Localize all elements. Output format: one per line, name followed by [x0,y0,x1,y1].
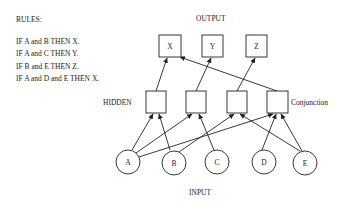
edge-B-H3 [179,114,234,152]
output-node-X: X [159,35,181,57]
edge-B-H1 [159,114,170,150]
output-label-X: X [167,42,173,51]
input-node-B: B [162,151,186,175]
hidden-node-3 [227,91,247,113]
edge-D-H4 [262,114,276,150]
hidden-node-1 [146,91,166,113]
input-node-A: A [116,150,140,174]
hidden-node-4 [267,91,288,113]
edge-H1-X [156,58,167,91]
input-node-C: C [205,150,229,174]
input-label-B: B [171,159,176,168]
edge-H3-Z [237,58,255,91]
input-label-C: C [214,158,219,167]
output-node-Y: Y [202,35,223,57]
network-diagram: X Y Z A B C D E [0,0,349,205]
edge-A-H2 [136,114,192,153]
input-label-A: A [125,158,131,167]
input-label-D: D [261,158,267,167]
input-node-D: D [252,150,276,174]
output-node-Z: Z [246,35,267,57]
edge-A-H4 [139,114,273,157]
output-label-Y: Y [210,42,216,51]
input-label-E: E [303,159,308,168]
edge-H4-X [180,57,277,91]
hidden-node-2 [186,91,206,113]
output-label-Z: Z [254,42,259,51]
edge-A-H1 [132,114,153,150]
edge-C-H2 [199,114,214,150]
input-node-E: E [293,151,317,175]
